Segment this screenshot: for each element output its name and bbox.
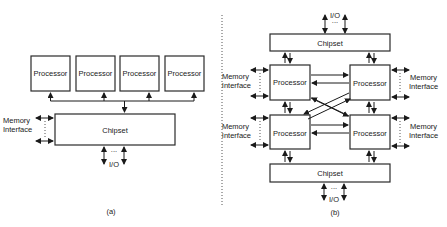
memory-interface-b-br: Memory Interface [392,118,438,146]
interface-label: Interface [3,125,32,134]
shared-bus [51,93,195,112]
chipset-label: Chipset [317,169,343,178]
processor-label: Processor [353,79,387,88]
caption-a: (a) [106,207,116,216]
interface-label: Interface [409,131,438,140]
io-ellipsis: ... [111,145,117,154]
processor-label: Processor [273,129,307,138]
io-a: ... I/O [104,145,124,169]
multiprocessor-diagram: Processor Processor Processor Processor … [0,0,447,227]
chipset-bottom-links [285,151,374,162]
chipset-label: Chipset [102,126,128,135]
processor-a4: Processor [165,56,204,91]
chipset-b-bottom: Chipset [270,164,390,182]
io-label: I/O [329,195,339,204]
io-label: I/O [109,160,119,169]
memory-label: Memory [410,73,437,82]
processor-label: Processor [168,69,202,78]
interface-label: Interface [222,81,251,90]
memory-label: Memory [410,122,437,131]
memory-label: Memory [222,72,249,81]
processor-label: Processor [79,69,113,78]
chipset-top-links [285,53,374,63]
processor-label: Processor [273,78,307,87]
memory-interface-b-tr: Memory Interface [392,70,438,97]
io-ellipsis: ... [331,182,337,191]
interface-label: Interface [409,82,438,91]
processor-a1: Processor [31,56,70,91]
processor-label: Processor [123,69,157,78]
processor-b-tl: Processor [270,65,310,100]
memory-interface-b-tl: Memory Interface [222,70,268,96]
processor-b-br: Processor [350,115,390,149]
chipset-b-top: Chipset [270,34,390,51]
chipset-a: Chipset [55,114,175,145]
processor-a2: Processor [76,56,115,91]
processor-b-bl: Processor [270,115,310,149]
memory-label: Memory [222,122,249,131]
processor-label: Processor [353,129,387,138]
chipset-label: Chipset [317,39,343,48]
processor-a3: Processor [120,56,159,91]
caption-b: (b) [330,208,340,217]
panel-a: Processor Processor Processor Processor … [3,56,204,216]
io-b-top: I/O ... [325,11,345,33]
memory-interface-b-bl: Memory Interface [222,118,268,145]
processor-label: Processor [34,69,68,78]
memory-label: Memory [3,116,30,125]
io-b-bottom: ... I/O [324,182,344,204]
processor-b-tr: Processor [350,65,390,100]
interface-label: Interface [222,131,251,140]
panel-b: I/O ... Chipset Processor Processor Proc… [222,11,438,217]
memory-interface-a: Memory Interface [3,116,53,141]
io-ellipsis: ... [332,16,338,25]
